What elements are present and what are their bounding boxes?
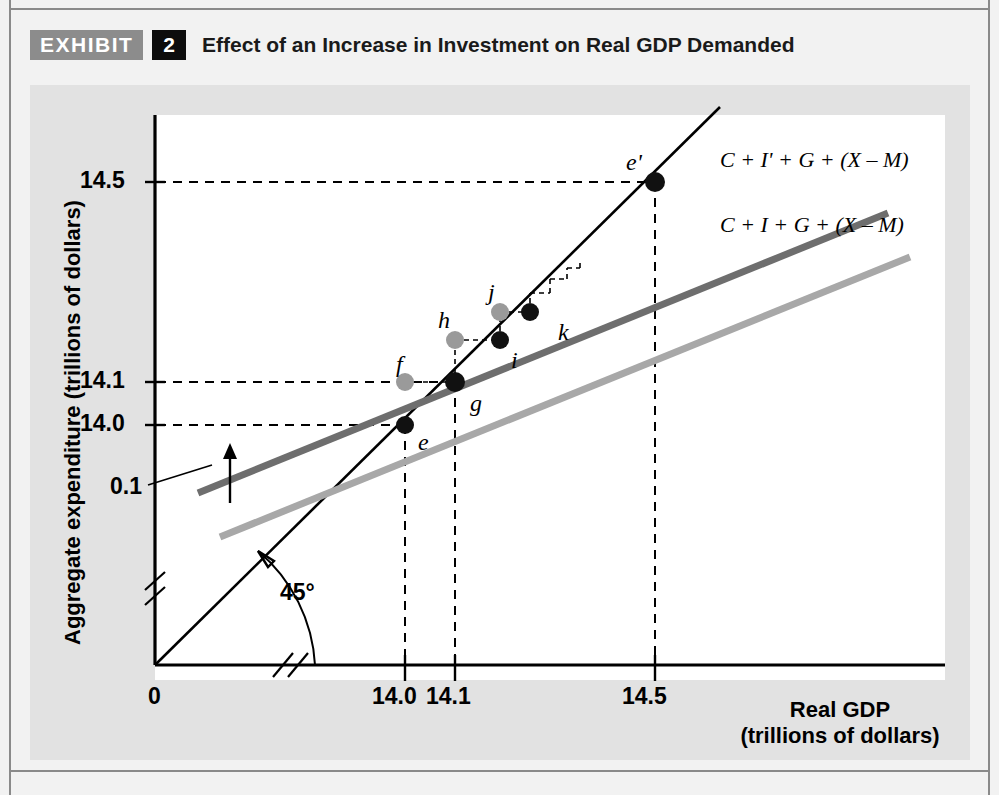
x-tick-label-14-5: 14.5 xyxy=(622,683,667,710)
investment-shift-label: 0.1 xyxy=(110,473,142,500)
forty-five-degree-label: 45° xyxy=(280,579,315,606)
forty-five-degree-line xyxy=(155,107,720,665)
exhibit-header: EXHIBIT 2 Effect of an Increase in Inves… xyxy=(30,28,794,62)
point-marker-e-prime xyxy=(645,172,665,192)
x-axis-title-main: Real GDP xyxy=(730,697,950,723)
shift-arrow-head xyxy=(223,443,237,459)
point-label-h: h xyxy=(438,307,450,334)
curve-original-expenditure xyxy=(220,257,910,537)
x-tick-label-14-1: 14.1 xyxy=(426,683,471,710)
exhibit-number: 2 xyxy=(152,30,186,60)
forty-five-degree-arc xyxy=(258,551,315,665)
point-label-g: g xyxy=(470,390,482,417)
curve-new-expenditure xyxy=(198,213,888,493)
page-border-left xyxy=(9,0,11,795)
y-tick-label-14-0: 14.0 xyxy=(80,410,125,437)
point-label-f: f xyxy=(396,351,403,378)
exhibit-title: Effect of an Increase in Investment on R… xyxy=(202,33,794,57)
point-marker-i xyxy=(491,331,509,349)
point-label-j: j xyxy=(488,279,495,306)
y-axis-title: Aggregate expenditure (trillions of doll… xyxy=(60,200,86,645)
page-background: EXHIBIT 2 Effect of an Increase in Inves… xyxy=(0,0,999,795)
curve-label-new-expenditure: C + I' + G + (X – M) xyxy=(720,147,909,173)
page-border-right xyxy=(988,0,990,795)
curve-label-original-expenditure: C + I + G + (X – M) xyxy=(720,212,904,238)
y-tick-label-14-5: 14.5 xyxy=(80,167,125,194)
x-origin-label: 0 xyxy=(148,683,161,710)
point-marker-g xyxy=(445,372,465,392)
page-border-top xyxy=(9,8,989,10)
chart-svg xyxy=(30,85,970,760)
shift-label-leader-line xyxy=(148,465,212,485)
exhibit-badge: EXHIBIT xyxy=(30,30,143,60)
aggregate-expenditure-chart: 14.5 14.1 14.0 0 14.0 14.1 14.5 e f g h … xyxy=(30,85,970,760)
point-label-e: e xyxy=(418,429,429,456)
y-tick-label-14-1: 14.1 xyxy=(80,367,125,394)
point-marker-k xyxy=(521,303,539,321)
x-axis-title: Real GDP (trillions of dollars) xyxy=(730,697,950,749)
x-axis-title-units: (trillions of dollars) xyxy=(730,723,950,749)
chart-panel: 14.5 14.1 14.0 0 14.0 14.1 14.5 e f g h … xyxy=(30,85,970,760)
point-label-e-prime: e' xyxy=(626,149,642,176)
x-tick-label-14-0: 14.0 xyxy=(372,683,417,710)
point-label-k: k xyxy=(558,319,569,346)
point-label-i: i xyxy=(511,347,518,374)
page-border-bottom xyxy=(9,770,989,772)
point-marker-e xyxy=(396,416,414,434)
